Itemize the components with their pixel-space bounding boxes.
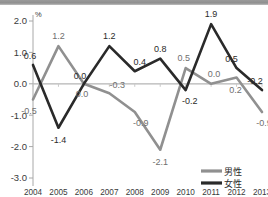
y-axis-unit: %	[35, 10, 42, 19]
data-label: -1.4	[51, 135, 67, 145]
data-label: -0.9	[133, 118, 149, 128]
data-label: 0.5	[225, 54, 238, 64]
x-axis-tick-label: 2011	[202, 188, 220, 197]
data-label: -0.2	[182, 96, 198, 106]
y-axis-tick-label: -3.0	[11, 172, 27, 183]
data-labels: -0.51.20.0-0.3-0.9-2.10.50.00.2-0.90.6-1…	[21, 9, 268, 167]
series-lines	[33, 24, 262, 150]
y-axis: 2.01.00.0-1.0-2.0-3.0	[11, 15, 33, 186]
series-line-female	[33, 24, 262, 128]
data-label: -0.9	[256, 118, 268, 128]
data-label: 0.0	[76, 89, 89, 99]
data-label: 0.4	[134, 57, 147, 67]
legend-label: 女性	[224, 178, 242, 189]
data-label: 0.0	[208, 69, 221, 79]
data-label: -0.2	[247, 76, 263, 86]
y-axis-tick-label: -2.0	[11, 141, 27, 152]
data-label: 1.9	[205, 9, 218, 19]
x-axis-tick-label: 2007	[100, 188, 119, 197]
data-label: 1.2	[52, 31, 65, 41]
chart-legend: 男性女性	[201, 166, 242, 189]
data-label: 0.8	[154, 44, 167, 54]
legend-label: 男性	[224, 166, 242, 177]
data-label: 0.5	[177, 53, 190, 63]
x-axis-tick-label: 2010	[177, 188, 196, 197]
x-axis-tick-label: 2004	[24, 188, 43, 197]
x-axis-tick-label: 2012	[227, 188, 246, 197]
data-label: 0.6	[24, 51, 37, 61]
y-axis-tick-label: 2.0	[14, 15, 27, 26]
data-label: 0.0	[74, 71, 87, 81]
chart-screenshot: 2.01.00.0-1.0-2.0-3.0 200420052006200720…	[0, 0, 268, 197]
x-axis-tick-label: 2005	[49, 188, 68, 197]
x-axis-tick-label: 2006	[75, 188, 94, 197]
x-axis-tick-label: 2008	[126, 188, 145, 197]
y-axis-tick-label: 0.0	[14, 78, 27, 89]
data-label: 0.2	[229, 85, 242, 95]
y-axis-unit-label: %	[35, 10, 42, 19]
line-chart: 2.01.00.0-1.0-2.0-3.0 200420052006200720…	[0, 5, 268, 197]
x-axis-tick-label: 2013	[253, 188, 268, 197]
data-label: -0.3	[110, 80, 126, 90]
x-axis-tick-label: 2009	[151, 188, 170, 197]
data-label: -2.1	[152, 157, 168, 167]
data-label: -0.5	[21, 106, 37, 116]
data-label: 1.2	[103, 31, 116, 41]
